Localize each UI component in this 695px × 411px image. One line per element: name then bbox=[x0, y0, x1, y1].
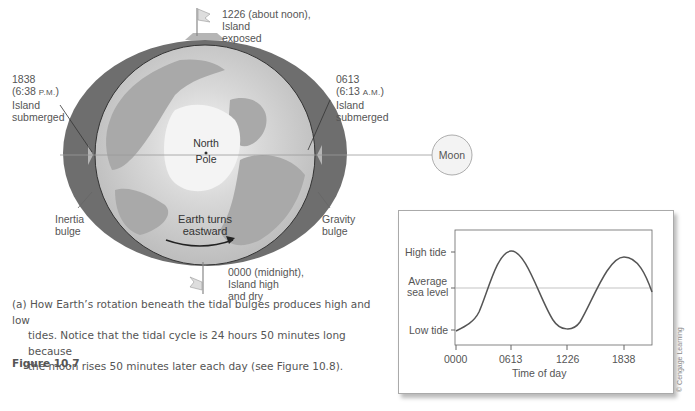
xtick-label-0000: 0000 bbox=[444, 353, 467, 365]
ytick-average-line2: sea level bbox=[407, 287, 448, 298]
tide-chart bbox=[0, 0, 695, 411]
xtick-label-0613: 0613 bbox=[499, 353, 522, 365]
ytick-label-low: Low tide bbox=[409, 324, 448, 336]
xtick-label-1226: 1226 bbox=[556, 353, 579, 365]
ytick-label-average: Average sea level bbox=[407, 276, 448, 298]
xtick-label-1838: 1838 bbox=[612, 353, 635, 365]
ytick-label-high: High tide bbox=[405, 246, 446, 258]
plot-area bbox=[455, 230, 652, 345]
x-axis-label: Time of day bbox=[512, 367, 566, 379]
copyright-notice: © Cengage Learning bbox=[676, 327, 683, 392]
tide-curve bbox=[456, 251, 652, 331]
